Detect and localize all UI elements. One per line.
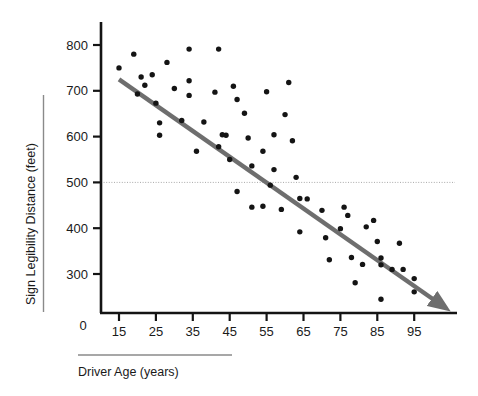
data-point [186,46,191,51]
data-point [371,218,376,223]
data-point [201,119,206,124]
x-tick-label-15: 15 [112,324,126,339]
y-tick-label-300: 300 [66,267,88,282]
y-tick-label-600: 600 [66,129,88,144]
data-point [282,112,287,117]
x-tick-label-45: 45 [222,324,236,339]
y-tick-label-700: 700 [66,83,88,98]
data-point [293,175,298,180]
x-axis-title: Driver Age (years) [78,365,179,379]
data-point [150,72,155,77]
data-point [349,255,354,260]
y-tick-label-800: 800 [66,38,88,53]
data-point [179,118,184,123]
data-point [212,89,217,94]
data-point [153,100,158,105]
data-point [389,267,394,272]
data-point [378,255,383,260]
data-point [345,213,350,218]
data-point [412,276,417,281]
data-point [378,296,383,301]
data-point [164,60,169,65]
data-point [378,262,383,267]
data-point [319,208,324,213]
data-point [297,196,302,201]
data-point [341,204,346,209]
data-point [172,86,177,91]
data-point [249,204,254,209]
data-point [271,167,276,172]
data-point [412,289,417,294]
data-point [157,133,162,138]
data-point [397,241,402,246]
data-point [216,144,221,149]
data-point [286,80,291,85]
data-point [304,196,309,201]
data-point [142,83,147,88]
data-point [116,65,121,70]
data-point [290,138,295,143]
y-tick-label-500: 500 [66,175,88,190]
data-point [242,111,247,116]
data-point [352,280,357,285]
x-tick-label-55: 55 [259,324,273,339]
data-point [260,149,265,154]
data-point [227,157,232,162]
x-tick-label-75: 75 [333,324,347,339]
x-tick-label-65: 65 [296,324,310,339]
data-point [194,149,199,154]
y-axis-title: Sign Legibility Distance (feet) [24,143,38,305]
data-point [297,229,302,234]
data-point [327,257,332,262]
data-point [249,163,254,168]
data-point [231,84,236,89]
x-tick-label-25: 25 [149,324,163,339]
data-point [268,182,273,187]
data-point [135,91,140,96]
data-point [338,226,343,231]
data-point [279,207,284,212]
data-point [364,224,369,229]
y-axis-zero-label: 0 [79,318,86,333]
data-point [223,133,228,138]
data-point [375,239,380,244]
data-point [271,132,276,137]
data-point [216,46,221,51]
data-point [400,267,405,272]
scatter-plot: 300400500600700800 152535455565758595 Si… [0,0,478,396]
data-point [323,235,328,240]
y-tick-label-400: 400 [66,221,88,236]
x-tick-label-95: 95 [407,324,421,339]
x-tick-label-85: 85 [370,324,384,339]
data-point [186,93,191,98]
data-point [234,97,239,102]
data-point [264,89,269,94]
data-point [157,120,162,125]
data-point [360,262,365,267]
data-point [131,51,136,56]
x-tick-label-35: 35 [186,324,200,339]
data-point [138,74,143,79]
data-point [260,204,265,209]
data-point [245,135,250,140]
data-point [186,78,191,83]
data-point [234,189,239,194]
chart-container: 300400500600700800 152535455565758595 Si… [0,0,478,396]
